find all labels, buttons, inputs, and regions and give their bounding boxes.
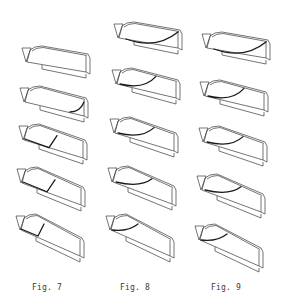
- fig-7-sketch-5: [14, 212, 90, 264]
- fig-9-sketch-4: [195, 172, 271, 224]
- fig-8-sketch-3: [108, 115, 184, 167]
- fig-8-sketch-1: [112, 20, 188, 72]
- fig-9-sketch-2: [198, 78, 274, 130]
- fig-9-sketch-3: [197, 124, 273, 176]
- fig-8-label: Fig. 8: [120, 283, 150, 292]
- fig-9-sketch-1: [200, 30, 276, 82]
- fig-8-sketch-2: [110, 66, 186, 118]
- figure-canvas: Fig. 7 Fig. 8 Fig. 9: [0, 0, 286, 303]
- fig-7-sketch-4: [15, 165, 91, 217]
- fig-8-sketch-4: [106, 164, 182, 216]
- fig-9-label: Fig. 9: [211, 283, 241, 292]
- fig-7-label: Fig. 7: [32, 283, 62, 292]
- fig-8-sketch-5: [104, 212, 180, 264]
- fig-9-sketch-5: [193, 222, 269, 274]
